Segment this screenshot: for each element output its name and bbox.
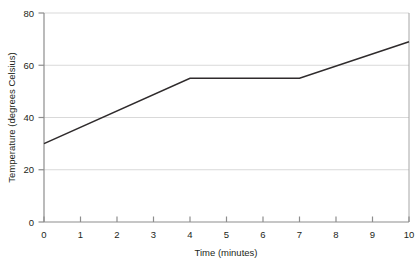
x-tick-label-4: 4 bbox=[187, 229, 192, 240]
x-axis-title: Time (minutes) bbox=[195, 247, 258, 258]
y-tick-label-20: 20 bbox=[23, 164, 34, 175]
x-tick-label-8: 8 bbox=[333, 229, 338, 240]
chart-canvas: 80 60 40 20 0 0 1 2 3 4 5 6 7 8 9 10 Tim… bbox=[0, 0, 419, 265]
y-axis-title: Temperature (degrees Celsius) bbox=[6, 52, 17, 182]
x-tick-labels: 0 1 2 3 4 5 6 7 8 9 10 bbox=[41, 229, 414, 240]
x-tick-label-5: 5 bbox=[224, 229, 229, 240]
y-tick-label-40: 40 bbox=[23, 112, 34, 123]
x-tick-label-0: 0 bbox=[41, 229, 46, 240]
y-tick-label-0: 0 bbox=[29, 217, 34, 228]
x-tick-label-3: 3 bbox=[151, 229, 156, 240]
x-tick-label-2: 2 bbox=[114, 229, 119, 240]
y-tick-labels: 80 60 40 20 0 bbox=[23, 8, 34, 228]
x-tick-label-1: 1 bbox=[78, 229, 83, 240]
y-axis-ticks bbox=[39, 13, 45, 222]
x-tick-label-6: 6 bbox=[260, 229, 265, 240]
line-chart: 80 60 40 20 0 0 1 2 3 4 5 6 7 8 9 10 Tim… bbox=[0, 0, 419, 265]
x-tick-label-9: 9 bbox=[370, 229, 375, 240]
x-tick-label-7: 7 bbox=[297, 229, 302, 240]
y-tick-label-60: 60 bbox=[23, 60, 34, 71]
x-tick-label-10: 10 bbox=[404, 229, 415, 240]
y-tick-label-80: 80 bbox=[23, 8, 34, 19]
